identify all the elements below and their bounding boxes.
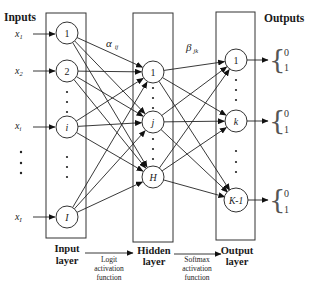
connection-edge — [162, 127, 226, 170]
ellipsis-dot — [235, 89, 237, 91]
logit-activation-label: function — [97, 273, 122, 282]
output-node-label: K-1 — [228, 196, 243, 206]
input-feature-x1: x1 — [14, 28, 55, 40]
output-node-label: 1 — [234, 55, 239, 66]
ellipsis-dot — [66, 111, 68, 113]
output-value-top: 0 — [284, 108, 289, 119]
softmax-activation-label: function — [185, 273, 210, 282]
svg-text:x2: x2 — [14, 65, 23, 77]
connection-edge — [74, 80, 146, 169]
ellipsis-dot — [152, 97, 154, 99]
connection-edge — [162, 67, 227, 116]
hidden-layer-label: layer — [143, 256, 166, 267]
ellipsis-dot — [20, 172, 22, 174]
connection-edge — [162, 78, 226, 116]
ellipsis-dot — [66, 156, 68, 158]
softmax-activation-label: activation — [182, 264, 212, 273]
output-value-bottom: 1 — [284, 204, 289, 215]
input-features: x1 x2 xi xI — [14, 28, 55, 223]
ellipsis-dot — [66, 101, 68, 103]
ellipsis-dot — [152, 148, 154, 150]
output-value-top: 0 — [284, 188, 289, 199]
logit-activation-label: activation — [94, 264, 124, 273]
ellipsis-dot — [66, 166, 68, 168]
ellipsis-dot — [235, 171, 237, 173]
ellipsis-dot — [152, 158, 154, 160]
hidden-layer-label: Hidden — [137, 245, 170, 256]
input-feature-xI: xI — [14, 211, 55, 223]
connection-edge — [161, 130, 228, 193]
output-value-bottom: 1 — [284, 124, 289, 135]
inputs-header: Inputs — [4, 11, 36, 24]
ellipsis-dot — [152, 138, 154, 140]
input-layer-label: Input — [54, 243, 80, 254]
connection-edge — [73, 82, 148, 208]
input-node-label: 2 — [65, 66, 70, 77]
neural-network-diagram: Inputs Outputs x1 x2 xi xI 1 2 — [0, 0, 312, 290]
ellipsis-dot — [20, 151, 22, 153]
beta-weight-label: βjk — [185, 41, 198, 54]
input-feature-x2: x2 — [14, 65, 55, 77]
output-layer-label: Output — [221, 245, 254, 256]
input-node-label: i — [66, 122, 69, 133]
connection-edge — [159, 81, 230, 190]
output-node-label: k — [234, 116, 239, 127]
connection-edge — [78, 71, 142, 72]
alpha-weight-label: αij — [106, 37, 119, 50]
hidden-node-label: 1 — [151, 67, 156, 78]
input-feature-xi: xi — [14, 120, 55, 132]
ellipsis-dot — [66, 176, 68, 178]
output-layer-label: layer — [226, 256, 249, 267]
ellipsis-dot — [152, 107, 154, 109]
hidden-node-label: H — [148, 172, 157, 183]
output-values: { 0 1 { 0 1 { 0 1 — [247, 45, 289, 215]
ellipsis-dot — [66, 91, 68, 93]
hidden-nodes: 1 j H — [142, 61, 164, 188]
logit-activation-label: Logit — [101, 255, 118, 264]
input-node-label: 1 — [65, 28, 70, 39]
softmax-activation-label: Softmax — [184, 255, 210, 264]
output-value-bottom: 1 — [284, 62, 289, 73]
ellipsis-dot — [152, 87, 154, 89]
input-node-label: I — [64, 212, 69, 223]
outputs-header: Outputs — [264, 12, 305, 25]
svg-text:xi: xi — [14, 120, 21, 132]
ellipsis-dot — [235, 79, 237, 81]
ellipsis-dot — [235, 161, 237, 163]
connection-edge — [159, 69, 229, 168]
ellipsis-dot — [235, 150, 237, 152]
svg-text:xI: xI — [14, 211, 22, 223]
input-nodes: 1 2 i I — [56, 22, 78, 228]
input-layer-label: layer — [56, 255, 79, 266]
svg-text:x1: x1 — [14, 28, 23, 40]
ellipsis-dot — [235, 99, 237, 101]
output-value-top: 0 — [284, 47, 289, 58]
ellipsis-dot — [20, 162, 22, 164]
